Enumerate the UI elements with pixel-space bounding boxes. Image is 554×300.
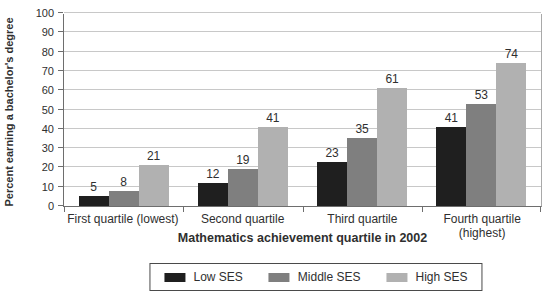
- y-tick-mark: [58, 147, 63, 148]
- bar-value-label: 8: [120, 175, 127, 189]
- legend-label: High SES: [416, 270, 468, 284]
- y-tick-label: 10: [0, 180, 54, 194]
- bar-group: 5821: [64, 14, 183, 206]
- y-tick-mark: [58, 51, 63, 52]
- bar-high-ses: 41: [258, 127, 288, 206]
- y-tick-label: 60: [0, 83, 54, 97]
- bar-value-label: 41: [266, 111, 279, 125]
- y-tick-mark: [58, 31, 63, 32]
- y-axis-tick-labels: 0102030405060708090100: [0, 14, 54, 207]
- y-tick-mark: [58, 70, 63, 71]
- x-axis-title: Mathematics achievement quartile in 2002: [63, 231, 542, 245]
- bar-high-ses: 74: [496, 63, 526, 206]
- bar-value-label: 53: [475, 88, 488, 102]
- bar-value-label: 61: [385, 72, 398, 86]
- y-tick-label: 0: [0, 199, 54, 213]
- y-tick-label: 20: [0, 160, 54, 174]
- y-tick-label: 80: [0, 45, 54, 59]
- legend-item-low-ses: Low SES: [164, 270, 242, 284]
- bar-low-ses: 41: [436, 127, 466, 206]
- bar-value-label: 41: [445, 111, 458, 125]
- bar-low-ses: 5: [79, 196, 109, 206]
- y-tick-label: 90: [0, 25, 54, 39]
- bar-middle-ses: 8: [109, 191, 139, 206]
- bar-high-ses: 61: [377, 88, 407, 206]
- bar-value-label: 74: [505, 47, 518, 61]
- y-tick-mark: [58, 109, 63, 110]
- legend-swatch: [164, 273, 185, 282]
- bar-middle-ses: 35: [347, 138, 377, 206]
- legend-swatch: [269, 273, 290, 282]
- plot-area: 5821121941233561415374: [63, 14, 542, 207]
- bar-value-label: 5: [90, 180, 97, 194]
- bar-low-ses: 23: [317, 162, 347, 206]
- legend-swatch: [387, 273, 408, 282]
- y-tick-mark: [58, 205, 63, 206]
- bar-value-label: 23: [325, 146, 338, 160]
- bar-middle-ses: 19: [228, 169, 258, 206]
- gridline: [64, 12, 541, 13]
- bar-value-label: 12: [206, 167, 219, 181]
- bar-group: 415374: [422, 14, 541, 206]
- bar-middle-ses: 53: [466, 104, 496, 206]
- y-tick-mark: [58, 12, 63, 13]
- bar-value-label: 35: [355, 122, 368, 136]
- y-tick-label: 70: [0, 64, 54, 78]
- bar-chart-figure: Percent earning a bachelor's degree 0102…: [0, 0, 554, 300]
- y-tick-mark: [58, 166, 63, 167]
- y-tick-label: 100: [0, 6, 54, 20]
- y-tick-mark: [58, 89, 63, 90]
- legend-item-middle-ses: Middle SES: [269, 270, 361, 284]
- bar-high-ses: 21: [139, 165, 169, 206]
- bar-group: 121941: [183, 14, 302, 206]
- y-tick-label: 50: [0, 103, 54, 117]
- y-tick-mark: [58, 128, 63, 129]
- y-tick-mark: [58, 186, 63, 187]
- y-tick-label: 40: [0, 122, 54, 136]
- bar-low-ses: 12: [198, 183, 228, 206]
- legend: Low SESMiddle SESHigh SES: [149, 263, 482, 291]
- bar-value-label: 21: [147, 149, 160, 163]
- legend-item-high-ses: High SES: [387, 270, 468, 284]
- legend-label: Low SES: [193, 270, 242, 284]
- y-tick-label: 30: [0, 141, 54, 155]
- legend-label: Middle SES: [298, 270, 361, 284]
- bar-value-label: 19: [236, 153, 249, 167]
- bar-group: 233561: [303, 14, 422, 206]
